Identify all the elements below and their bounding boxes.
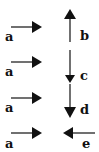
vector-label-e: e [82, 136, 90, 151]
arrowhead-right-icon [32, 92, 42, 104]
arrowhead-right-icon [32, 127, 42, 139]
vector-c: c [65, 50, 88, 83]
vector-a-row-4: a [5, 127, 42, 151]
vector-a-row-2: a [5, 56, 42, 79]
arrowhead-right-icon [32, 21, 42, 33]
arrowhead-up-icon [64, 9, 76, 19]
vector-label-b: b [80, 28, 89, 43]
vector-label-a: a [5, 136, 14, 151]
arrowhead-left-icon [63, 127, 73, 139]
vector-a-row-1: a [5, 21, 42, 44]
vector-b: b [64, 9, 89, 43]
vector-diagram: a b a c a d a e [0, 0, 99, 152]
arrowhead-right-icon [32, 56, 42, 68]
vector-d: d [64, 84, 89, 118]
vector-label-a: a [5, 64, 14, 79]
vector-a-row-3: a [5, 92, 42, 115]
vector-e: e [63, 127, 95, 151]
vector-label-a: a [5, 100, 14, 115]
vector-label-d: d [80, 102, 89, 117]
arrowhead-down-icon [65, 75, 75, 83]
arrowhead-down-icon [64, 107, 76, 118]
vector-label-c: c [80, 68, 88, 83]
vector-label-a: a [5, 29, 14, 44]
